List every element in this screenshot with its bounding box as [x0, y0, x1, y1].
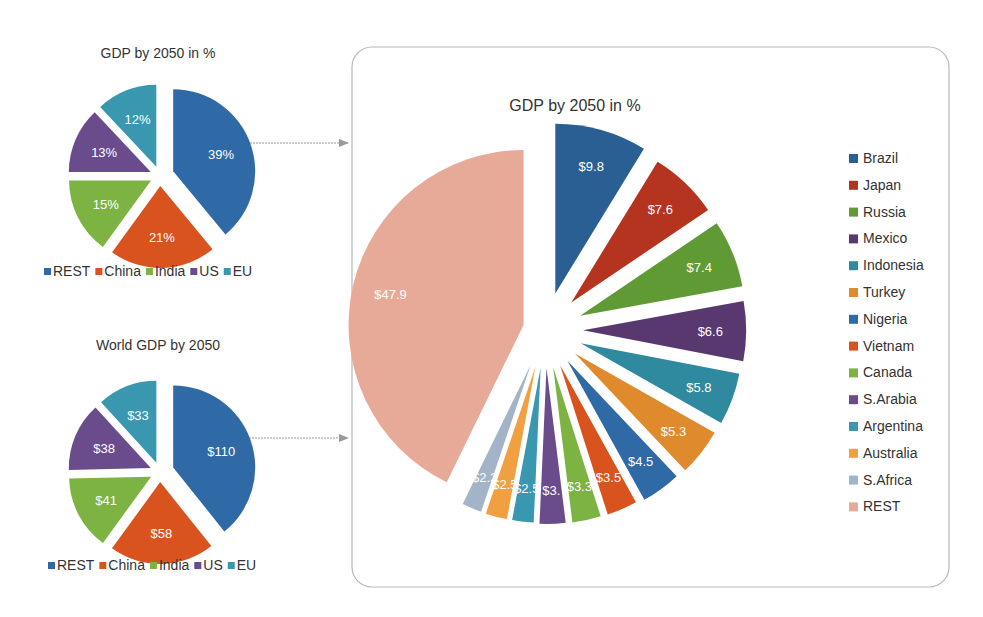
data-label: $33: [127, 408, 149, 423]
legend-label-rest: REST: [863, 498, 901, 514]
legend-label-brazil: Brazil: [863, 150, 898, 166]
legend-label-rest: REST: [57, 557, 95, 573]
legend-label-indonesia: Indonesia: [863, 257, 924, 273]
legend-label-eu: EU: [237, 557, 256, 573]
data-label: $2.5: [514, 481, 539, 496]
legend-label-turkey: Turkey: [863, 284, 905, 300]
legend-swatch-indonesia: [849, 261, 858, 270]
legend-label-s-africa: S.Africa: [863, 472, 912, 488]
legend-swatch-australia: [849, 449, 858, 458]
data-label: $2.3: [472, 470, 497, 485]
legend-swatch-us: [190, 268, 197, 275]
data-label: $58: [151, 526, 173, 541]
legend-label-s-arabia: S.Arabia: [863, 391, 917, 407]
data-label: $41: [95, 493, 117, 508]
data-label: $7.4: [687, 260, 712, 275]
legend-swatch-rest: [849, 502, 858, 511]
legend-swatch-s-africa: [849, 476, 858, 485]
legend-swatch-us: [194, 562, 201, 569]
legend-label-us: US: [199, 263, 218, 279]
legend-swatch-india: [150, 562, 157, 569]
legend-label-us: US: [203, 557, 222, 573]
data-label: $38: [93, 441, 115, 456]
legend-label-australia: Australia: [863, 445, 918, 461]
legend-swatch-rest: [44, 268, 51, 275]
data-label: $6.6: [698, 324, 723, 339]
data-label: $110: [207, 444, 235, 459]
legend-label-china: China: [104, 263, 141, 279]
chart-title: GDP by 2050 in %: [101, 45, 216, 61]
data-label: $3.3: [567, 479, 592, 494]
legend-swatch-eu: [228, 562, 235, 569]
legend-swatch-japan: [849, 181, 858, 190]
legend-swatch-eu: [224, 268, 231, 275]
legend-label-japan: Japan: [863, 177, 901, 193]
legend-swatch-russia: [849, 208, 858, 217]
legend-label-india: India: [159, 557, 190, 573]
legend-label-vietnam: Vietnam: [863, 338, 914, 354]
legend-swatch-mexico: [849, 234, 858, 243]
legend-label-canada: Canada: [863, 364, 912, 380]
legend-swatch-china: [95, 268, 102, 275]
pie-chart-gdp-percent: GDP by 2050 in % 39%21%15%13%12% RESTChi…: [44, 45, 255, 279]
data-label: 21%: [149, 230, 175, 245]
data-label: $7.6: [648, 202, 673, 217]
data-label: $47.9: [374, 287, 407, 302]
data-label: $5.3: [661, 424, 686, 439]
legend-label-russia: Russia: [863, 204, 906, 220]
data-label: $4.5: [628, 454, 653, 469]
legend-swatch-turkey: [849, 288, 858, 297]
legend-label-eu: EU: [233, 263, 252, 279]
legend-label-china: China: [108, 557, 145, 573]
legend-swatch-brazil: [849, 154, 858, 163]
legend-swatch-argentina: [849, 422, 858, 431]
legend-label-rest: REST: [53, 263, 91, 279]
legend-swatch-india: [146, 268, 153, 275]
data-label: $3.5: [596, 470, 621, 485]
legend-swatch-china: [99, 562, 106, 569]
legend-swatch-rest: [48, 562, 55, 569]
data-label: 13%: [91, 145, 117, 160]
legend-label-argentina: Argentina: [863, 418, 923, 434]
pie-chart-world-gdp: World GDP by 2050 $110$58$41$38$33 RESTC…: [48, 337, 256, 573]
legend-label-nigeria: Nigeria: [863, 311, 908, 327]
legend-swatch-nigeria: [849, 315, 858, 324]
data-label: 12%: [125, 112, 151, 127]
data-label: $3.: [542, 483, 560, 498]
legend-swatch-s-arabia: [849, 395, 858, 404]
chart-title: World GDP by 2050: [96, 337, 220, 353]
legend-swatch-vietnam: [849, 342, 858, 351]
chart-title: GDP by 2050 in %: [509, 97, 640, 114]
infographic: GDP by 2050 in % 39%21%15%13%12% RESTChi…: [0, 0, 983, 617]
data-label: $9.8: [579, 159, 604, 174]
data-label: 39%: [208, 147, 234, 162]
legend-label-india: India: [155, 263, 186, 279]
legend-swatch-canada: [849, 368, 858, 377]
data-label: 15%: [93, 197, 119, 212]
data-label: $5.8: [686, 380, 711, 395]
legend-label-mexico: Mexico: [863, 230, 908, 246]
